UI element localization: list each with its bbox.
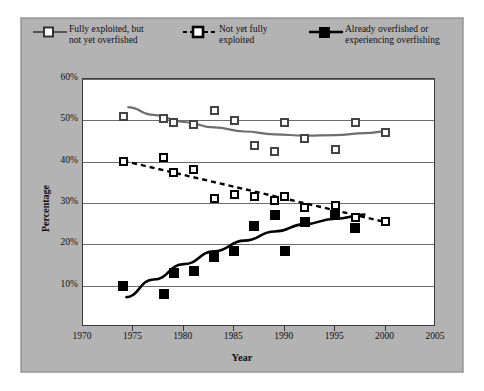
- y-tick-label: 60%: [38, 72, 78, 82]
- legend-item-not-yet-fully-exploited[interactable]: Not yet fullyexploited: [182, 24, 268, 46]
- data-point: [119, 112, 128, 121]
- data-point: [300, 203, 309, 212]
- data-point: [381, 128, 390, 137]
- legend-label-fully-exploited: Fully exploited, butnot yet overfished: [69, 24, 144, 46]
- x-tick-label: 2005: [415, 331, 455, 341]
- data-point: [119, 157, 128, 166]
- legend-label-line1: Already overfished or: [345, 24, 428, 34]
- x-tick-mark: [334, 326, 335, 331]
- data-point: [331, 145, 340, 154]
- x-tick-label: 1970: [62, 331, 102, 341]
- data-point: [230, 190, 239, 199]
- data-point: [351, 213, 360, 222]
- data-point: [249, 221, 259, 231]
- y-tick-label: 20%: [38, 237, 78, 247]
- x-tick-label: 1975: [112, 331, 152, 341]
- legend-label-line2: experiencing overfishing: [345, 35, 440, 45]
- legend-label-line2: exploited: [219, 35, 254, 45]
- data-point: [189, 120, 198, 129]
- data-point: [280, 118, 289, 127]
- chart-root: Fully exploited, butnot yet overfished N…: [0, 0, 484, 391]
- data-point: [118, 281, 128, 291]
- legend-label-line1: Not yet fully: [219, 24, 268, 34]
- data-point: [189, 266, 199, 276]
- data-point: [300, 217, 310, 227]
- data-point: [210, 106, 219, 115]
- data-point: [330, 210, 340, 220]
- legend-marker-open-square-gray-solid: [32, 25, 68, 39]
- legend-swatch-icon: [308, 25, 344, 39]
- y-tick-label: 10%: [38, 279, 78, 289]
- x-tick-mark: [132, 326, 133, 331]
- legend-swatch-icon: [32, 25, 68, 39]
- data-point: [280, 246, 290, 256]
- trendline: [125, 215, 365, 298]
- legend-item-fully-exploited[interactable]: Fully exploited, butnot yet overfished: [32, 24, 144, 46]
- legend-label-not-yet-fully-exploited: Not yet fullyexploited: [219, 24, 268, 46]
- data-point: [280, 192, 289, 201]
- x-tick-mark: [284, 326, 285, 331]
- y-tick-label: 30%: [38, 196, 78, 206]
- data-point: [350, 223, 360, 233]
- x-tick-label: 1980: [163, 331, 203, 341]
- data-point: [230, 116, 239, 125]
- x-tick-label: 2000: [365, 331, 405, 341]
- x-tick-mark: [183, 326, 184, 331]
- plot-area: [82, 78, 435, 326]
- data-point: [169, 268, 179, 278]
- data-point: [159, 114, 168, 123]
- legend-label-already-overfished: Already overfished orexperiencing overfi…: [345, 24, 440, 46]
- data-point: [189, 165, 198, 174]
- data-point: [250, 192, 259, 201]
- y-tick-label: 40%: [38, 155, 78, 165]
- data-point: [209, 252, 219, 262]
- legend-label-line1: Fully exploited, but: [69, 24, 144, 34]
- legend-marker-filled-square-solid: [308, 25, 344, 39]
- data-point: [159, 289, 169, 299]
- chart-legend: Fully exploited, butnot yet overfished N…: [30, 24, 458, 58]
- x-tick-label: 1985: [213, 331, 253, 341]
- x-tick-mark: [233, 326, 234, 331]
- data-point: [381, 217, 390, 226]
- x-tick-label: 1995: [314, 331, 354, 341]
- x-axis-title: Year: [0, 352, 484, 363]
- data-point: [331, 201, 340, 210]
- data-point: [270, 196, 279, 205]
- legend-marker-open-square-dashed: [182, 25, 218, 39]
- data-point: [169, 168, 178, 177]
- x-tick-label: 1990: [264, 331, 304, 341]
- data-point: [351, 118, 360, 127]
- data-point: [159, 153, 168, 162]
- x-tick-mark: [385, 326, 386, 331]
- data-point: [229, 246, 239, 256]
- data-point: [300, 134, 309, 143]
- y-axis-title-wrap: Percentage: [38, 150, 52, 270]
- trendlines: [83, 79, 436, 327]
- data-point: [270, 210, 280, 220]
- legend-item-already-overfished[interactable]: Already overfished orexperiencing overfi…: [308, 24, 440, 46]
- legend-label-line2: not yet overfished: [69, 35, 138, 45]
- data-point: [169, 118, 178, 127]
- data-point: [250, 141, 259, 150]
- data-point: [210, 194, 219, 203]
- y-tick-label: 50%: [38, 113, 78, 123]
- data-point: [270, 147, 279, 156]
- legend-swatch-icon: [182, 25, 218, 39]
- y-axis-title: Percentage: [40, 149, 51, 269]
